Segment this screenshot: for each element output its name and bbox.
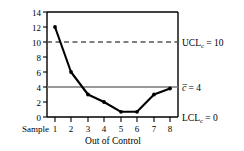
lcl-label-text: LCL bbox=[182, 113, 200, 123]
x-axis-sample-label: Sample bbox=[22, 124, 49, 134]
x-tick-label-1: 1 bbox=[53, 124, 58, 134]
x-tick-label-6: 6 bbox=[135, 124, 140, 134]
ucl-label-value: 10 bbox=[214, 38, 224, 48]
x-axis-title: Out of Control bbox=[85, 136, 141, 146]
x-tick-label-4: 4 bbox=[102, 124, 107, 134]
data-point-1 bbox=[53, 25, 57, 29]
lcl-label: LCLc = 0 bbox=[182, 113, 218, 124]
x-tick-label-7: 7 bbox=[152, 124, 157, 134]
ucl-label: UCLc = 10 bbox=[182, 38, 224, 49]
x-tick-label-3: 3 bbox=[86, 124, 91, 134]
lcl-label-value: 0 bbox=[213, 113, 218, 123]
data-point-2 bbox=[69, 70, 73, 74]
plot-frame bbox=[47, 12, 178, 117]
lcl-label-equals: = bbox=[203, 113, 213, 123]
data-point-6 bbox=[135, 110, 139, 114]
ucl-label-text: UCL bbox=[182, 38, 201, 48]
x-axis-tick-labels: 1 2 3 4 5 6 7 8 bbox=[53, 124, 173, 134]
data-point-5 bbox=[119, 110, 123, 114]
center-line-label-equals: = bbox=[186, 83, 196, 93]
y-tick-label-12: 12 bbox=[32, 23, 41, 33]
y-tick-label-6: 6 bbox=[37, 68, 42, 78]
x-tick-label-8: 8 bbox=[168, 124, 173, 134]
data-point-4 bbox=[102, 100, 106, 104]
y-tick-label-14: 14 bbox=[32, 8, 42, 18]
y-tick-label-2: 2 bbox=[37, 98, 42, 108]
ucl-label-equals: = bbox=[204, 38, 214, 48]
chart-canvas: 0 2 4 6 8 10 12 14 bbox=[0, 0, 244, 151]
y-tick-label-0: 0 bbox=[37, 113, 42, 123]
y-tick-label-4: 4 bbox=[37, 83, 42, 93]
x-axis-ticks bbox=[55, 117, 170, 122]
control-chart: 0 2 4 6 8 10 12 14 bbox=[0, 0, 244, 151]
x-tick-label-5: 5 bbox=[119, 124, 124, 134]
y-axis-tick-labels: 0 2 4 6 8 10 12 14 bbox=[32, 8, 42, 123]
y-tick-label-10: 10 bbox=[32, 38, 42, 48]
data-point-7 bbox=[152, 93, 156, 97]
y-tick-label-8: 8 bbox=[37, 53, 42, 63]
center-line-label: c̅ = 4 bbox=[182, 83, 201, 93]
data-point-3 bbox=[86, 93, 90, 97]
x-tick-label-2: 2 bbox=[69, 124, 74, 134]
data-series-line bbox=[55, 27, 170, 112]
data-point-8 bbox=[168, 87, 172, 91]
center-line-label-value: 4 bbox=[196, 83, 201, 93]
